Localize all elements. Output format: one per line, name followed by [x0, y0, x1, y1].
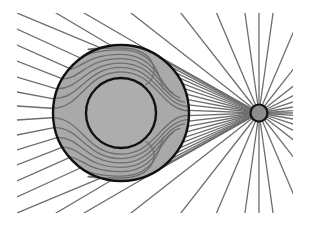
point-charge: [251, 105, 268, 122]
inner-core: [86, 78, 156, 148]
field-line: [259, 113, 295, 225]
field-line: [17, 178, 102, 213]
field-line: [17, 77, 59, 90]
field-line: [17, 13, 102, 48]
diagram-canvas: [0, 0, 309, 225]
field-line: [17, 167, 82, 197]
field-line: [17, 127, 57, 135]
field-line: [17, 106, 55, 108]
field-line-diagram: [0, 0, 309, 225]
field-line: [17, 92, 56, 99]
field-line: [17, 29, 82, 59]
field-line: [259, 0, 295, 113]
field-line: [17, 45, 71, 69]
field-line: [259, 68, 309, 113]
field-line: [17, 147, 64, 165]
field-line: [17, 61, 64, 79]
field-line: [17, 137, 59, 150]
field-line: [259, 113, 309, 158]
field-line: [17, 118, 55, 120]
field-line: [17, 157, 71, 181]
